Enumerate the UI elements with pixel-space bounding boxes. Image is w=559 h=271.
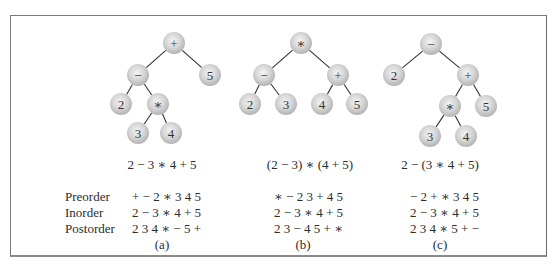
- tree-node: −: [420, 33, 442, 55]
- postorder-a: 2 3 4 ∗ − 5 +: [132, 221, 201, 237]
- tree-node: 2: [239, 93, 261, 115]
- tree-node: 5: [475, 95, 497, 117]
- tree-node: +: [327, 64, 349, 86]
- tree-node: 3: [127, 122, 149, 144]
- tree-node: −: [253, 64, 275, 86]
- node-label: +: [464, 68, 471, 83]
- tree-edge: [327, 85, 332, 95]
- node-label: 2: [118, 97, 125, 112]
- caption-a: (a): [155, 237, 169, 253]
- tree-edge: [456, 85, 463, 97]
- tree-edge: [127, 84, 133, 94]
- preorder-b: ∗ − 2 3 + 4 5: [274, 189, 343, 205]
- tree-node: 5: [199, 64, 221, 86]
- tree-edge: [439, 51, 459, 68]
- inorder-a: 2 − 3 ∗ 4 + 5: [132, 205, 201, 221]
- tree-node: ∗: [290, 32, 312, 54]
- node-label: 5: [354, 97, 361, 112]
- node-label: 5: [207, 68, 214, 83]
- node-label: 4: [319, 97, 326, 112]
- node-label: −: [260, 68, 267, 83]
- tree-node: 3: [275, 93, 297, 115]
- node-label: 4: [168, 126, 175, 141]
- tree-node: 2: [110, 93, 132, 115]
- tree-edge: [402, 51, 422, 68]
- preorder-a: + − 2 ∗ 3 4 5: [132, 189, 201, 205]
- tree-edge: [309, 50, 329, 68]
- tree-node: 5: [346, 93, 368, 115]
- postorder-b: 2 3 − 4 5 + ∗: [274, 221, 343, 237]
- tree-edge: [146, 50, 166, 67]
- tree-a: +−52∗34: [110, 32, 221, 144]
- tree-node: 4: [455, 125, 477, 147]
- node-label: 3: [427, 129, 434, 144]
- caption-c: (c): [433, 237, 447, 253]
- tree-edge: [344, 84, 351, 95]
- tree-edge: [436, 115, 444, 127]
- postorder-c: 2 3 4 ∗ 5 + −: [410, 221, 479, 237]
- tree-edge: [271, 84, 280, 95]
- tree-node: 4: [311, 93, 333, 115]
- node-label: +: [334, 68, 341, 83]
- node-label: 3: [283, 97, 290, 112]
- node-label: 5: [483, 99, 490, 114]
- tree-edge: [474, 85, 481, 97]
- tree-node: 4: [160, 122, 182, 144]
- node-label: 2: [247, 97, 254, 112]
- tree-c: −2+∗534: [383, 33, 497, 147]
- tree-node: 2: [383, 64, 405, 86]
- tree-node: −: [127, 64, 149, 86]
- inorder-c: 2 − 3 ∗ 4 + 5: [410, 205, 479, 221]
- tree-edge: [272, 50, 292, 68]
- row-label-preorder: Preorder: [65, 189, 110, 205]
- node-label: 3: [135, 126, 142, 141]
- tree-node: ∗: [147, 93, 169, 115]
- expression-c: 2 − (3 ∗ 4 + 5): [401, 157, 479, 173]
- node-label: −: [134, 68, 141, 83]
- tree-edge: [455, 116, 461, 127]
- node-label: 4: [463, 129, 470, 144]
- tree-edge: [144, 84, 152, 95]
- tree-node: +: [457, 64, 479, 86]
- tree-b: ∗−+2345: [239, 32, 368, 115]
- tree-node: ∗: [439, 95, 461, 117]
- node-label: 2: [391, 68, 398, 83]
- tree-node: 3: [419, 125, 441, 147]
- node-label: ∗: [446, 99, 455, 114]
- caption-b: (b): [295, 237, 310, 253]
- node-label: ∗: [297, 36, 306, 51]
- node-label: +: [170, 36, 177, 51]
- node-label: ∗: [154, 97, 163, 112]
- row-label-inorder: Inorder: [65, 205, 103, 221]
- node-label: −: [427, 37, 434, 52]
- tree-node: +: [163, 32, 185, 54]
- tree-edge: [144, 113, 152, 124]
- tree-edge: [255, 85, 259, 94]
- expression-a: 2 − 3 ∗ 4 + 5: [128, 157, 197, 173]
- inorder-b: 2 − 3 ∗ 4 + 5: [274, 205, 343, 221]
- row-label-postorder: Postorder: [65, 221, 115, 237]
- expression-b: (2 − 3) ∗ (4 + 5): [267, 157, 353, 173]
- preorder-c: − 2 + ∗ 3 4 5: [410, 189, 479, 205]
- tree-edge: [182, 50, 202, 67]
- tree-edge: [162, 114, 166, 123]
